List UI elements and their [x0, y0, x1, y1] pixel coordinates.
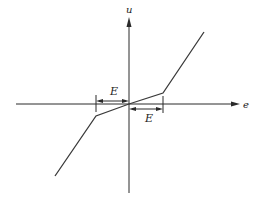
axis-arrow-icon [231, 102, 240, 107]
dimension-arrow-icon [156, 107, 163, 111]
dimension-arrow-icon [122, 99, 129, 103]
left-dead-zone-dimension: E [96, 85, 129, 112]
left-e-label: E [109, 85, 118, 98]
horizontal-axis: e [16, 99, 249, 110]
characteristic-diagram: e u E E [0, 0, 261, 205]
dimension-arrow-icon [129, 107, 136, 111]
right-dead-zone-dimension: E [129, 96, 163, 125]
dimension-arrow-icon [96, 99, 103, 103]
axis-arrow-icon [127, 17, 132, 27]
vertical-axis: u [126, 4, 132, 193]
right-e-label: E [144, 112, 153, 125]
y-axis-label: u [126, 4, 132, 15]
x-axis-label: e [243, 99, 249, 110]
